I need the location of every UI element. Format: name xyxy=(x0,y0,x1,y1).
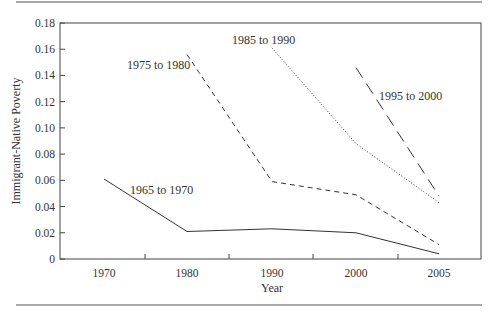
x-tick-label: 2000 xyxy=(345,267,368,279)
series-line xyxy=(356,68,439,197)
y-tick-label: 0.14 xyxy=(35,69,55,81)
y-tick-label: 0 xyxy=(49,253,55,265)
y-tick-label: 0.08 xyxy=(35,148,55,160)
x-tick-label: 1970 xyxy=(93,267,116,279)
x-axis-title: Year xyxy=(261,281,283,295)
y-tick-label: 0.02 xyxy=(35,227,55,239)
y-axis-title: Immigrant-Native Poverty xyxy=(9,78,23,205)
x-axis: 19701980199020002005 xyxy=(93,254,451,279)
y-tick-label: 0.12 xyxy=(35,96,55,108)
x-tick-label: 2005 xyxy=(428,267,451,279)
line-chart: 00.020.040.060.080.100.120.140.160.18 19… xyxy=(0,0,494,313)
y-tick-label: 0.06 xyxy=(35,174,55,186)
series-lines xyxy=(104,48,439,254)
series-line xyxy=(187,55,439,245)
y-tick-label: 0.04 xyxy=(35,201,55,213)
y-tick-label: 0.10 xyxy=(35,122,55,134)
series-line xyxy=(272,48,439,203)
series-label-1975-1980: 1975 to 1980 xyxy=(127,58,190,72)
x-tick-label: 1980 xyxy=(176,267,199,279)
x-tick-label: 1990 xyxy=(261,267,284,279)
y-tick-label: 0.18 xyxy=(35,17,55,29)
series-label-1995-2000: 1995 to 2000 xyxy=(379,89,442,103)
y-tick-label: 0.16 xyxy=(35,43,55,55)
plot-frame xyxy=(60,23,481,259)
series-label-1985-1990: 1985 to 1990 xyxy=(232,33,295,47)
series-label-1965-1970: 1965 to 1970 xyxy=(130,183,193,197)
